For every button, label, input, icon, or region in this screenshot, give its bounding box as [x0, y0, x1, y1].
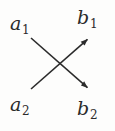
node-subscript-b1: 1 [90, 17, 98, 31]
crossing-arrows-diagram: a1 b1 a2 b2 [0, 0, 115, 131]
node-base-a1: a [10, 12, 22, 34]
node-subscript-a2: 2 [22, 104, 30, 118]
node-base-a2: a [10, 93, 22, 115]
arrow-a2-to-b1 [31, 39, 87, 89]
arrow-a1-to-b2 [31, 38, 87, 88]
node-label-a2: a2 [10, 95, 29, 114]
node-subscript-b2: 2 [90, 108, 98, 122]
node-label-a1: a1 [10, 14, 29, 33]
node-base-b1: b [77, 6, 89, 28]
node-base-b2: b [77, 97, 89, 119]
node-label-b2: b2 [77, 99, 97, 118]
node-label-b1: b1 [77, 8, 97, 27]
node-subscript-a1: 1 [22, 23, 30, 37]
